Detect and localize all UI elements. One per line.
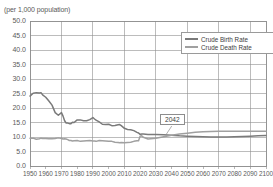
y-axis-tick-label: 15.0 bbox=[0, 119, 26, 126]
y-axis-tick-label: 25.0 bbox=[0, 90, 26, 97]
x-axis-tick-label: 2100 bbox=[255, 170, 273, 177]
y-axis-tick-label: 35.0 bbox=[0, 61, 26, 68]
legend-label-crude-birth-rate: Crude Birth Rate bbox=[201, 36, 248, 43]
plot-area bbox=[0, 0, 273, 187]
y-axis-tick-label: 0.0 bbox=[0, 162, 26, 169]
legend-item-crude-birth-rate: Crude Birth Rate bbox=[185, 35, 273, 43]
y-axis-tick-label: 30.0 bbox=[0, 75, 26, 82]
y-axis-tick-label: 5.0 bbox=[0, 148, 26, 155]
crude-birth-death-rate-chart: (per 1,000 population) Crude Birth Rate … bbox=[0, 0, 273, 187]
legend-item-crude-death-rate: Crude Death Rate bbox=[185, 43, 273, 51]
legend-swatch-crude-death-rate bbox=[185, 46, 198, 48]
chart-legend: Crude Birth Rate Crude Death Rate bbox=[181, 32, 273, 54]
y-axis-tick-label: 40.0 bbox=[0, 46, 26, 53]
y-axis-tick-label: 45.0 bbox=[0, 32, 26, 39]
y-axis-tick-label: 20.0 bbox=[0, 104, 26, 111]
y-axis-tick-label: 50.0 bbox=[0, 17, 26, 24]
y-axis-tick-label: 10.0 bbox=[0, 133, 26, 140]
legend-swatch-crude-birth-rate bbox=[185, 38, 198, 40]
crossover-year-callout: 2042 bbox=[160, 114, 185, 125]
legend-label-crude-death-rate: Crude Death Rate bbox=[201, 44, 252, 51]
